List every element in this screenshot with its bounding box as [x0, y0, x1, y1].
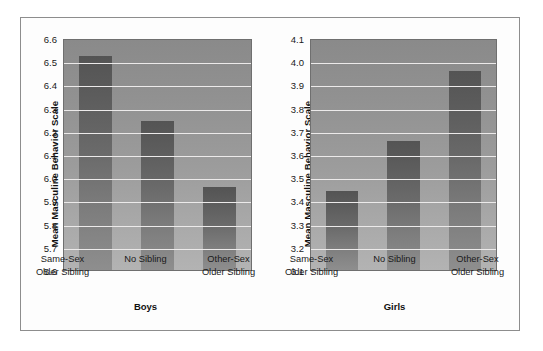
x-axis-label-line: Other-Sex — [439, 253, 516, 266]
panel-container: Mean Masculine Behavior Scale 6.66.56.46… — [21, 18, 519, 330]
x-axis-label-line: Older Sibling — [273, 266, 350, 279]
gridline — [64, 86, 251, 87]
y-axis-tick-label: 3.7 — [291, 126, 304, 137]
gridline — [64, 156, 251, 157]
gridline — [311, 202, 496, 203]
y-axis-tick-label: 6.2 — [44, 126, 57, 137]
plot-area-wrapper-girls — [310, 39, 497, 271]
gridline — [311, 110, 496, 111]
plot-area-boys — [63, 39, 252, 271]
gridline — [311, 133, 496, 134]
gridline — [311, 179, 496, 180]
x-axis-label-line: No Sibling — [356, 253, 433, 266]
gridline — [64, 63, 251, 64]
y-axis-tick-label: 6.0 — [44, 173, 57, 184]
y-axis-tick-label: 5.9 — [44, 196, 57, 207]
gridline — [311, 156, 496, 157]
x-axis-category-label: Same-SexOlder Sibling — [273, 253, 350, 278]
y-axis-ticks-boys: 6.66.56.46.36.26.16.05.95.85.75.6 — [25, 18, 59, 330]
x-axis-label-line: No Sibling — [107, 253, 184, 266]
y-axis-tick-label: 4.0 — [291, 57, 304, 68]
y-axis-tick-label: 5.8 — [44, 219, 57, 230]
gridline — [64, 110, 251, 111]
panel-title-girls: Girls — [270, 301, 519, 312]
x-axis-label-line: Older Sibling — [439, 266, 516, 279]
figure-frame: Mean Masculine Behavior Scale 6.66.56.46… — [20, 17, 520, 331]
x-axis-label-line: Same-Sex — [273, 253, 350, 266]
y-axis-tick-label: 6.4 — [44, 80, 57, 91]
x-axis-label-line: Same-Sex — [24, 253, 101, 266]
y-axis-tick-label: 6.1 — [44, 150, 57, 161]
gridline — [64, 202, 251, 203]
plot-area-wrapper-boys — [63, 39, 252, 271]
gridline — [311, 63, 496, 64]
y-axis-tick-label: 6.3 — [44, 103, 57, 114]
y-axis-tick-label: 3.3 — [291, 219, 304, 230]
y-axis-tick-label: 3.6 — [291, 150, 304, 161]
x-axis-category-label: No Sibling — [107, 253, 184, 278]
gridline — [64, 226, 251, 227]
y-axis-tick-label: 3.4 — [291, 196, 304, 207]
y-axis-ticks-girls: 4.14.03.93.83.73.63.53.43.33.23.1 — [272, 18, 306, 330]
bar — [449, 71, 481, 270]
bar — [79, 56, 112, 270]
bar — [387, 141, 419, 270]
gridline — [311, 249, 496, 250]
y-axis-tick-label: 3.5 — [291, 173, 304, 184]
x-axis-category-label: Same-SexOlder Sibling — [24, 253, 101, 278]
chart-panel-girls: Mean Masculine Behavior Scale 4.14.03.93… — [270, 18, 519, 330]
y-axis-tick-label: 3.9 — [291, 80, 304, 91]
chart-panel-boys: Mean Masculine Behavior Scale 6.66.56.46… — [21, 18, 270, 330]
x-axis-label-line: Older Sibling — [24, 266, 101, 279]
gridline — [311, 86, 496, 87]
bar — [141, 121, 174, 271]
y-axis-tick-label: 6.5 — [44, 57, 57, 68]
gridline — [64, 179, 251, 180]
plot-area-girls — [310, 39, 497, 271]
bar-group-girls — [311, 40, 496, 270]
x-axis-label-line: Older Sibling — [190, 266, 267, 279]
y-axis-tick-label: 5.7 — [44, 242, 57, 253]
x-axis-category-label: Other-SexOlder Sibling — [439, 253, 516, 278]
x-axis-labels-girls: Same-SexOlder SiblingNo SiblingOther-Sex… — [270, 253, 519, 278]
gridline — [311, 226, 496, 227]
y-axis-tick-label: 3.2 — [291, 242, 304, 253]
y-axis-tick-label: 3.8 — [291, 103, 304, 114]
bar-group-boys — [64, 40, 251, 270]
x-axis-category-label: Other-SexOlder Sibling — [190, 253, 267, 278]
y-axis-tick-label: 4.1 — [291, 34, 304, 45]
x-axis-labels-boys: Same-SexOlder SiblingNo SiblingOther-Sex… — [21, 253, 270, 278]
x-axis-label-line: Other-Sex — [190, 253, 267, 266]
gridline — [64, 249, 251, 250]
y-axis-tick-label: 6.6 — [44, 34, 57, 45]
panel-title-boys: Boys — [21, 301, 270, 312]
gridline — [64, 133, 251, 134]
x-axis-category-label: No Sibling — [356, 253, 433, 278]
